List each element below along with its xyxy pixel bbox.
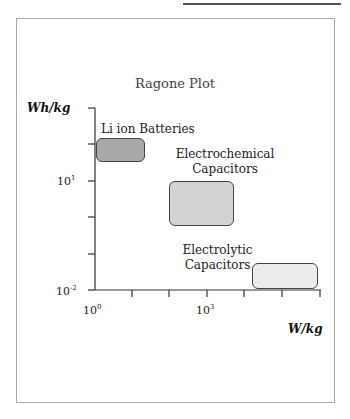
x-tick-label-10-0: 100 xyxy=(83,303,101,317)
x-tick-label-10-3: 103 xyxy=(196,303,214,317)
electrolytic-capacitors-region xyxy=(252,263,318,289)
y-tick-label-10-neg2: 10-2 xyxy=(56,284,77,298)
li-ion-batteries-region xyxy=(96,138,145,162)
li-ion-batteries-label: Li ion Batteries xyxy=(101,122,195,137)
electrochemical-capacitors-region xyxy=(169,181,234,226)
electrochemical-capacitors-label: ElectrochemicalCapacitors xyxy=(170,147,280,177)
electrolytic-capacitors-label: ElectrolyticCapacitors xyxy=(180,243,255,273)
y-tick-label-10-1: 101 xyxy=(57,174,75,188)
